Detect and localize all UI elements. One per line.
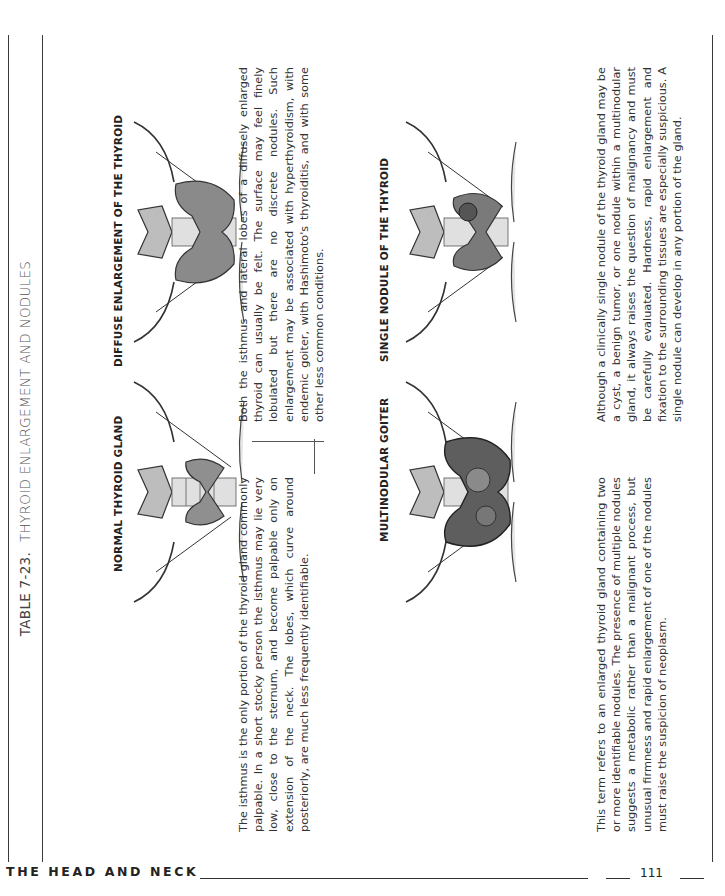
table-number: TABLE 7-23. [17,552,33,636]
table-caption: TABLE 7-23. THYROID ENLARGEMENT AND NODU… [8,35,42,862]
multinodular-goiter-illustration [398,342,528,642]
panel-heading-multinodular: MULTINODULAR GOITER [378,398,390,542]
row-divider [314,439,315,474]
panel-heading-diffuse: DIFFUSE ENLARGEMENT OF THE THYROID [112,115,124,367]
rotated-table-page: TABLE 7-23. THYROID ENLARGEMENT AND NODU… [8,35,712,862]
page-footer: THE HEAD AND NECK 111 [0,862,725,892]
panel-heading-single-nodule: SINGLE NODULE OF THE THYROID [378,158,390,362]
panel-text-diffuse: Both the isthmus and lateral lobes of a … [236,67,327,422]
footer-rule-right [680,878,704,879]
frame-right-border [712,35,713,862]
footer-rule [200,878,588,879]
panel-heading-normal: NORMAL THYROID GLAND [112,415,124,572]
table-title: THYROID ENLARGEMENT AND NODULES [17,261,33,542]
panel-text-single-nodule: Although a clinically single nodule of t… [594,67,685,422]
single-nodule-illustration [398,82,528,382]
section-title: THE HEAD AND NECK [6,864,198,879]
page-number: 111 [640,866,663,880]
footer-rule-left [606,878,630,879]
panel-text-multinodular: This term refers to an enlarged thyroid … [594,477,670,832]
panel-text-normal: The isthmus is the only portion of the t… [236,477,312,832]
